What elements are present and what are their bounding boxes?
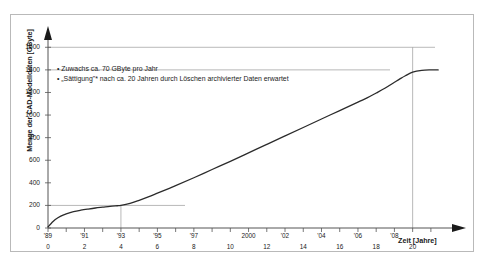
chart-annotations: • Zuwachs ca. 70 GByte pro Jahr • „Sätti… — [57, 64, 289, 84]
x-number-label-7: 14 — [300, 243, 307, 250]
y-tick-label-1000: 1000 — [6, 111, 40, 118]
x-number-label-8: 16 — [336, 243, 343, 250]
y-tick-label-600: 600 — [6, 156, 40, 163]
x-axis-ticks — [48, 228, 431, 232]
x-year-label-4: '97 — [190, 232, 198, 239]
x-year-label-5: 2000 — [241, 232, 255, 239]
x-number-label-6: 12 — [263, 243, 270, 250]
x-year-label-2: '93 — [117, 232, 125, 239]
y-tick-label-1400: 1400 — [6, 66, 40, 73]
y-tick-label-0: 0 — [6, 224, 40, 231]
annotation-line-1: • Zuwachs ca. 70 GByte pro Jahr — [57, 64, 289, 74]
x-number-label-0: 0 — [46, 243, 50, 250]
chart-plot-area — [0, 0, 484, 266]
x-year-label-9: '08 — [390, 232, 398, 239]
chart-figure: Menge der CAD-Modelldaten [GByte] Zeit [… — [0, 0, 484, 266]
x-number-label-5: 10 — [227, 243, 234, 250]
x-year-label-0: '89 — [44, 232, 52, 239]
x-year-label-3: '95 — [153, 232, 161, 239]
y-axis-arrow-icon — [44, 26, 52, 40]
y-tick-label-1200: 1200 — [6, 88, 40, 95]
x-number-label-9: 18 — [373, 243, 380, 250]
x-year-label-7: '04 — [317, 232, 325, 239]
y-tick-label-400: 400 — [6, 179, 40, 186]
annotation-line-2: • „Sättigung"* nach ca. 20 Jahren durch … — [57, 74, 289, 84]
x-number-label-10: 20 — [409, 243, 416, 250]
y-tick-label-800: 800 — [6, 134, 40, 141]
x-year-label-6: '02 — [281, 232, 289, 239]
y-tick-label-1600: 1600 — [6, 43, 40, 50]
x-axis-title: Zeit [Jahre] — [398, 236, 437, 245]
x-number-label-3: 6 — [156, 243, 160, 250]
y-tick-label-200: 200 — [6, 201, 40, 208]
x-year-label-1: '91 — [80, 232, 88, 239]
data-series-curve — [48, 70, 438, 227]
x-number-label-1: 2 — [83, 243, 87, 250]
x-number-label-2: 4 — [119, 243, 123, 250]
x-year-label-8: '06 — [354, 232, 362, 239]
x-number-label-4: 8 — [192, 243, 196, 250]
x-axis-arrow-icon — [452, 224, 466, 232]
